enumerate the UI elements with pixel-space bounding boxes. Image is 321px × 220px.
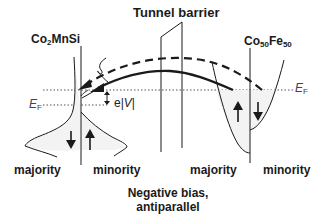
fermi-right-e: E (295, 81, 303, 95)
cofe-minority-label: minority (263, 163, 310, 177)
fermi-left-sub: F (37, 103, 42, 112)
caption-line-2: antiparallel (118, 200, 218, 214)
fermi-right-sub: F (303, 87, 308, 96)
fermi-level-left-label: EF (29, 97, 42, 112)
cofe-co-sub: 50 (260, 40, 269, 49)
co2mnsi-majority-label: majority (14, 163, 61, 177)
arrow-tail-line (82, 90, 96, 98)
co2mnsi-minority-text: minority (93, 163, 140, 177)
solid-tunneling-arrowhead (90, 83, 104, 92)
dashed-tunneling-arrowhead (78, 79, 92, 90)
cofe-co: Co (244, 34, 260, 48)
co2mnsi-majority-text: majority (14, 163, 61, 177)
caption-line-1: Negative bias, (118, 186, 218, 200)
bias-label: e|V| (114, 96, 135, 110)
co2mnsi-rest: MnSi (51, 32, 80, 46)
cofe-minority-text: minority (263, 163, 310, 177)
cofe-majority-label: majority (190, 163, 237, 177)
cofe-majority-text: majority (190, 163, 237, 177)
tunnel-barrier-text: Tunnel barrier (133, 5, 219, 20)
band-diagram: Tunnel barrier Co2MnSi Co50Fe50 EF EF e|… (0, 0, 321, 220)
cofe-fe-sub: 50 (283, 40, 292, 49)
fermi-level-right-label: EF (295, 81, 308, 96)
co2mnsi-base: Co (31, 32, 47, 46)
cofe-fe: Fe (269, 34, 283, 48)
bias-e: e (114, 96, 121, 110)
bias-v: V (124, 96, 132, 110)
cofe-minority-fill (250, 90, 276, 130)
fermi-left-e: E (29, 97, 37, 111)
dashed-tunneling-path (84, 58, 262, 90)
tunnel-barrier-label: Tunnel barrier (133, 5, 219, 20)
bias-double-arrow-icon (104, 91, 110, 105)
co2mnsi-label: Co2MnSi (31, 32, 80, 47)
cofe-label: Co50Fe50 (244, 34, 292, 49)
spin-flip-squiggle-icon (98, 58, 108, 82)
caption: Negative bias, antiparallel (118, 186, 218, 214)
barrier-top-line (161, 22, 182, 37)
co2mnsi-minority-label: minority (93, 163, 140, 177)
solid-tunneling-path (98, 71, 233, 90)
